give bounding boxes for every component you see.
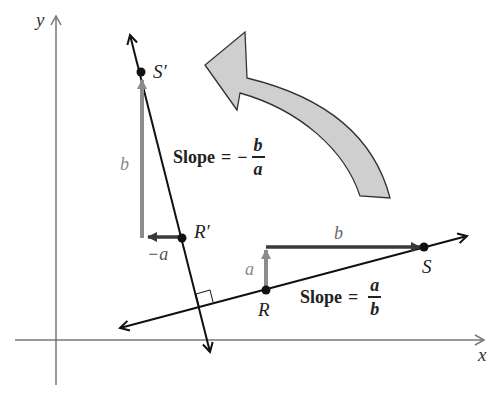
fraction-a-over-b: a b	[368, 276, 381, 318]
fraction-b-over-a: b a	[252, 136, 265, 178]
point-R-prime	[178, 234, 187, 243]
slope-word: Slope	[300, 287, 342, 308]
denominator: a	[254, 158, 263, 178]
denominator: b	[370, 298, 379, 318]
slope-original-label: Slope = a b	[300, 276, 381, 318]
perpendicular-slopes-diagram	[0, 0, 494, 397]
label-R: R	[258, 300, 270, 319]
label-S-prime: S′	[153, 62, 167, 81]
line-RS	[120, 236, 467, 328]
label-S: S	[422, 257, 432, 276]
label-R-prime: R′	[194, 222, 210, 241]
label-rise-b: b	[120, 155, 129, 173]
minus-sign: −	[237, 147, 247, 168]
y-axis-label: y	[36, 10, 44, 29]
point-S	[420, 243, 429, 252]
point-S-prime	[137, 68, 146, 77]
label-run-b: b	[334, 224, 343, 242]
equals-sign: =	[221, 147, 231, 168]
label-run-neg-a: −a	[147, 245, 168, 263]
x-axis-label: x	[478, 345, 486, 364]
numerator: b	[252, 136, 265, 158]
slope-word: Slope	[173, 147, 215, 168]
slope-rotated-label: Slope = − b a	[173, 136, 265, 178]
equals-sign: =	[348, 287, 358, 308]
point-R	[262, 286, 271, 295]
numerator: a	[368, 276, 381, 298]
label-rise-a: a	[245, 260, 254, 278]
